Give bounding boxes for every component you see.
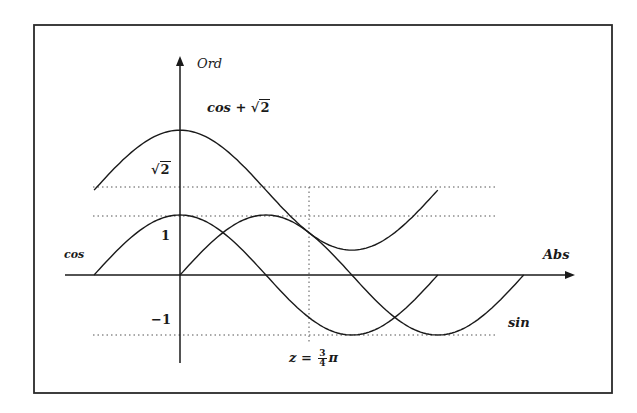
y-axis-arrowhead-icon: [176, 56, 184, 66]
sin-curve-label: sin: [508, 316, 530, 329]
sqrt-symbol: √2: [151, 163, 171, 176]
cos-plus-sqrt2-curve: [94, 130, 438, 250]
cos-plus-sqrt2-label: cos + √2: [207, 101, 270, 114]
tick-label-sqrt2: √2: [151, 163, 171, 176]
z-prefix: z =: [289, 350, 316, 365]
tick-label-one: 1: [161, 229, 170, 242]
cos-curve-label: cos: [64, 249, 84, 260]
fraction-three-quarters: 34: [318, 349, 326, 368]
pi-symbol: π: [329, 350, 339, 365]
abs-axis-label: Abs: [543, 248, 570, 261]
sqrt-symbol: √2: [251, 101, 271, 114]
cos-plus-sqrt2-prefix: cos +: [207, 100, 251, 115]
tick-label-minus-one: −1: [151, 313, 171, 326]
frame-border: [34, 25, 612, 393]
x-axis-arrowhead-icon: [565, 271, 575, 279]
figure: Ord Abs cos sin cos + √2 √2 1 −1 z = 34π: [0, 0, 637, 413]
z-annotation: z = 34π: [289, 349, 338, 368]
ord-axis-label: Ord: [197, 57, 222, 70]
